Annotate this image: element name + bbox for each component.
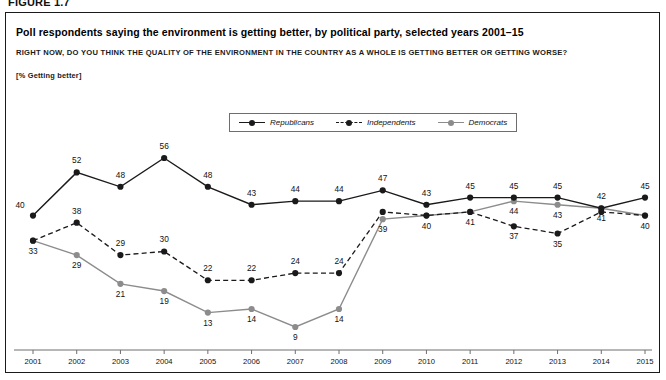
figure-title: Poll respondents saying the environment … bbox=[16, 26, 524, 38]
data-point-value-label: 42 bbox=[597, 191, 606, 201]
legend-item-democrats: Democrats bbox=[438, 118, 508, 127]
legend-label-republicans: Republicans bbox=[270, 118, 314, 127]
data-point-value-label: 45 bbox=[509, 181, 518, 191]
legend-item-independents: Independents bbox=[336, 118, 416, 127]
legend-marker-democrats-icon bbox=[438, 118, 464, 127]
data-point-value-label: 22 bbox=[203, 263, 212, 273]
data-point-value-label: 33 bbox=[28, 246, 37, 256]
data-point-value-label: 22 bbox=[247, 263, 256, 273]
x-axis-tick-label: 2008 bbox=[331, 357, 348, 366]
data-point-value-label: 45 bbox=[466, 181, 475, 191]
legend-marker-independents-icon bbox=[336, 118, 362, 127]
data-point-value-label: 45 bbox=[640, 181, 649, 191]
data-point-value-label: 9 bbox=[293, 332, 298, 342]
legend-label-democrats: Democrats bbox=[469, 118, 508, 127]
data-point-value-label: 52 bbox=[72, 155, 81, 165]
x-axis-tick-label: 2014 bbox=[593, 357, 610, 366]
data-point-value-label: 29 bbox=[116, 238, 125, 248]
x-axis-tick-label: 2015 bbox=[637, 357, 654, 366]
chart-legend: Republicans Independents Democrats bbox=[229, 113, 517, 132]
data-point-value-label: 30 bbox=[160, 234, 169, 244]
data-point-value-label: 29 bbox=[72, 260, 81, 270]
x-axis-tick-label: 2007 bbox=[287, 357, 304, 366]
data-point-value-label: 37 bbox=[509, 231, 518, 241]
data-point-value-label: 43 bbox=[553, 210, 562, 220]
x-axis-tick-label: 2001 bbox=[25, 357, 42, 366]
data-point-value-label: 47 bbox=[378, 173, 387, 183]
data-point-value-label: 14 bbox=[247, 314, 256, 324]
data-point-value-label: 24 bbox=[291, 256, 300, 266]
x-axis-tick-label: 2012 bbox=[505, 357, 522, 366]
data-point-value-label: 24 bbox=[334, 256, 343, 266]
figure-container: Poll respondents saying the environment … bbox=[5, 12, 660, 373]
data-point-value-label: 40 bbox=[640, 221, 649, 231]
data-point-value-label: 44 bbox=[291, 184, 300, 194]
figure-number-label: FIGURE 1.7 bbox=[8, 0, 70, 8]
figure-subtitle-question: RIGHT NOW, DO YOU THINK THE QUALITY OF T… bbox=[16, 48, 567, 57]
data-point-value-label: 39 bbox=[378, 224, 387, 234]
x-axis-tick-label: 2005 bbox=[199, 357, 216, 366]
x-axis-tick-label: 2009 bbox=[374, 357, 391, 366]
figure-unit-note: [% Getting better] bbox=[16, 71, 82, 80]
data-point-value-label: 44 bbox=[334, 184, 343, 194]
legend-label-independents: Independents bbox=[367, 118, 416, 127]
data-point-value-label: 43 bbox=[422, 188, 431, 198]
data-point-value-label: 13 bbox=[203, 318, 212, 328]
x-axis-tick-label: 2003 bbox=[112, 357, 129, 366]
data-point-value-label: 56 bbox=[160, 141, 169, 151]
x-axis-tick-label: 2010 bbox=[418, 357, 435, 366]
data-point-value-label: 48 bbox=[116, 170, 125, 180]
x-axis-tick-label: 2013 bbox=[549, 357, 566, 366]
data-point-value-label: 45 bbox=[553, 181, 562, 191]
data-point-value-label: 40 bbox=[422, 221, 431, 231]
data-point-value-label: 35 bbox=[553, 239, 562, 249]
data-point-value-label: 41 bbox=[597, 213, 606, 223]
data-point-value-label: 41 bbox=[466, 217, 475, 227]
data-point-value-label: 40 bbox=[15, 200, 24, 210]
x-axis-tick-label: 2011 bbox=[462, 357, 478, 366]
legend-marker-republicans-icon bbox=[239, 118, 265, 127]
legend-item-republicans: Republicans bbox=[239, 118, 314, 127]
x-axis-tick-label: 2002 bbox=[68, 357, 85, 366]
x-axis-tick-label: 2006 bbox=[243, 357, 260, 366]
data-point-value-label: 14 bbox=[334, 314, 343, 324]
x-axis-tick-label: 2004 bbox=[156, 357, 173, 366]
data-point-value-label: 21 bbox=[116, 289, 125, 299]
data-point-value-label: 38 bbox=[72, 206, 81, 216]
data-point-value-label: 43 bbox=[247, 188, 256, 198]
data-point-value-label: 19 bbox=[160, 296, 169, 306]
data-point-value-label: 44 bbox=[509, 206, 518, 216]
data-point-value-label: 48 bbox=[203, 170, 212, 180]
